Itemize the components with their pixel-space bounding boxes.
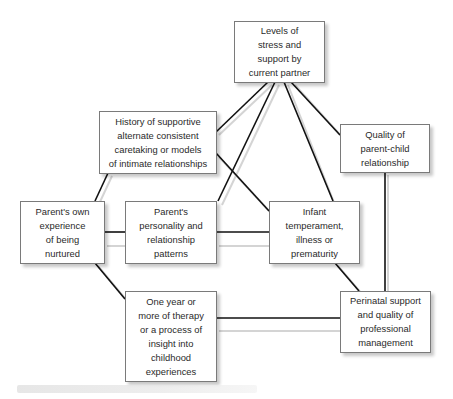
diagram-canvas: Levels of stress and support by current … bbox=[0, 0, 453, 399]
node-parent-own-nurturing: Parent's own experience of being nurture… bbox=[20, 201, 105, 264]
node-partner-stress-support: Levels of stress and support by current … bbox=[234, 21, 325, 83]
node-therapy-insight: One year or more of therapy or a process… bbox=[125, 291, 217, 382]
node-infant-temperament: Infant temperament, illness or prematuri… bbox=[269, 201, 360, 264]
node-history-supportive-caretaking: History of supportive alternate consiste… bbox=[99, 111, 217, 174]
figure-caption-illegible bbox=[17, 385, 257, 393]
edge-own-therapy bbox=[95, 263, 125, 299]
node-parent-personality: Parent's personality and relationship pa… bbox=[125, 201, 217, 264]
node-perinatal-support: Perinatal support and quality of profess… bbox=[340, 291, 431, 353]
edge-partner-personality bbox=[218, 82, 275, 201]
node-parent-child-relationship-quality: Quality of parent-child relationship bbox=[340, 124, 430, 173]
edge-partner-quality bbox=[291, 82, 340, 135]
edge-infant-perinatal bbox=[335, 263, 359, 291]
